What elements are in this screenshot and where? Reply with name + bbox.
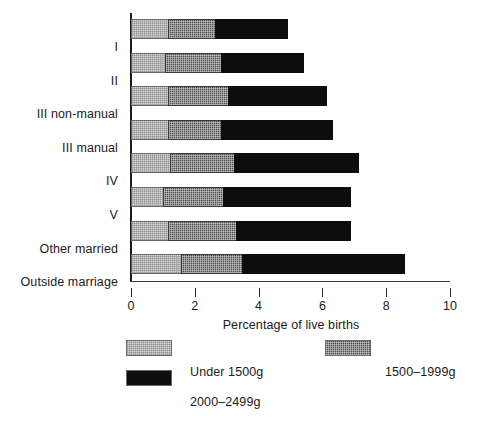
bar-segment — [131, 254, 182, 274]
bar-segment — [168, 19, 216, 39]
bar-segment — [168, 86, 229, 106]
x-axis-tick — [259, 288, 260, 297]
legend-label-2000-2499g: 2000–2499g — [190, 395, 261, 410]
bar-row — [131, 19, 288, 39]
stacked-bar — [131, 120, 333, 140]
x-axis-tick — [131, 288, 132, 297]
bar-segment — [221, 53, 304, 73]
bar-row — [131, 120, 333, 140]
x-axis-tick — [195, 288, 196, 297]
bar-segment — [168, 221, 237, 241]
category-label: III manual — [0, 141, 118, 155]
bar-row — [131, 86, 327, 106]
bar-segment — [242, 254, 405, 274]
x-axis-tick-label: 2 — [175, 299, 215, 314]
bar-segment — [168, 120, 222, 140]
bar-segment — [131, 53, 166, 73]
bar-segment — [170, 153, 235, 173]
bar-row — [131, 187, 351, 207]
bar-segment — [221, 120, 333, 140]
legend-label-under-1500g: Under 1500g — [190, 365, 263, 380]
x-axis-tick — [450, 288, 451, 297]
x-axis-line — [130, 281, 450, 282]
bar-segment — [165, 53, 222, 73]
stacked-bar — [131, 86, 327, 106]
x-axis-tick — [386, 288, 387, 297]
bar-row — [131, 221, 351, 241]
x-axis-tick-label: 10 — [430, 299, 470, 314]
stacked-bar — [131, 53, 304, 73]
x-axis-tick-label: 8 — [366, 299, 406, 314]
bar-segment — [215, 19, 288, 39]
x-axis-tick-label: 4 — [239, 299, 279, 314]
category-label: II — [0, 74, 118, 88]
bar-segment — [131, 86, 169, 106]
bar-segment — [131, 187, 164, 207]
bar-segment — [234, 153, 358, 173]
stacked-bar-chart: IIIIII non-manualIII manualIVVOther marr… — [0, 0, 486, 428]
bar-row — [131, 53, 304, 73]
legend-swatch-1500-1999g — [325, 340, 371, 356]
stacked-bar — [131, 221, 351, 241]
x-axis-tick-label: 0 — [111, 299, 151, 314]
category-label: IV — [0, 174, 118, 188]
x-axis-title: Percentage of live births — [131, 318, 451, 332]
category-label: Other married — [0, 242, 118, 256]
bar-segment — [131, 153, 171, 173]
x-axis-tick-label: 6 — [302, 299, 342, 314]
legend-swatch-under-1500g — [126, 340, 172, 356]
bar-segment — [163, 187, 224, 207]
category-label: V — [0, 208, 118, 222]
category-label: I — [0, 40, 118, 54]
bar-row — [131, 254, 405, 274]
bar-segment — [236, 221, 351, 241]
stacked-bar — [131, 19, 288, 39]
legend-label-1500-1999g: 1500–1999g — [385, 365, 456, 380]
bar-segment — [131, 120, 169, 140]
bar-segment — [181, 254, 243, 274]
stacked-bar — [131, 187, 351, 207]
stacked-bar — [131, 254, 405, 274]
bar-segment — [131, 221, 169, 241]
bar-row — [131, 153, 359, 173]
stacked-bar — [131, 153, 359, 173]
bar-segment — [131, 19, 169, 39]
category-label: Outside marriage — [0, 275, 118, 289]
x-axis-tick — [322, 288, 323, 297]
legend-swatch-2000-2499g — [126, 370, 172, 386]
category-label: III non-manual — [0, 107, 118, 121]
bar-segment — [223, 187, 351, 207]
bar-segment — [228, 86, 327, 106]
